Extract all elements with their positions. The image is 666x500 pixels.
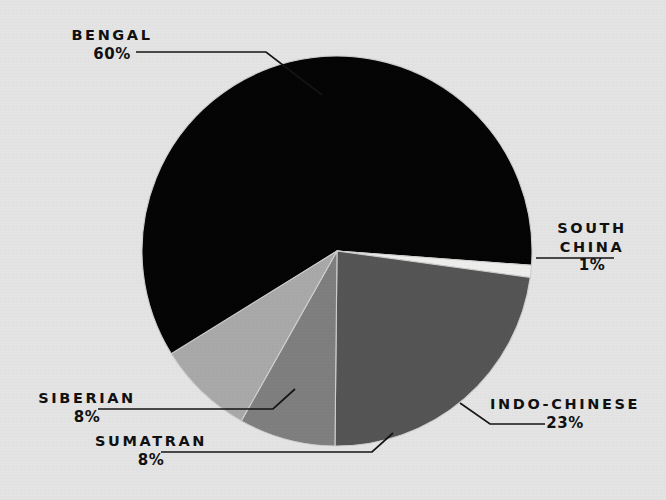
pie-label-siberian: SIBERIAN 8% [26,389,148,427]
pie-label-indo-chinese: INDO-CHINESE 23% [472,395,658,433]
pie-label-south-china-value: 1% [524,256,660,275]
pie-label-bengal-name: BENGAL [62,26,162,45]
pie-label-sumatran-name: SUMATRAN [86,432,216,451]
pie-label-indo-chinese-name: INDO-CHINESE [472,395,658,414]
pie-label-siberian-name: SIBERIAN [26,389,148,408]
pie-label-south-china-name-line1: SOUTH [524,219,660,238]
pie-label-bengal: BENGAL 60% [62,26,162,64]
pie-slices [142,56,532,446]
pie-label-sumatran-value: 8% [86,451,216,470]
pie-label-bengal-value: 60% [62,45,162,64]
pie-label-south-china-name-line2: CHINA [524,238,660,257]
pie-chart-figure: BENGAL 60% SOUTH CHINA 1% INDO-CHINESE 2… [0,0,666,500]
pie-label-south-china: SOUTH CHINA 1% [524,219,660,275]
pie-label-sumatran: SUMATRAN 8% [86,432,216,470]
pie-label-indo-chinese-value: 23% [472,414,658,433]
pie-label-siberian-value: 8% [26,408,148,427]
